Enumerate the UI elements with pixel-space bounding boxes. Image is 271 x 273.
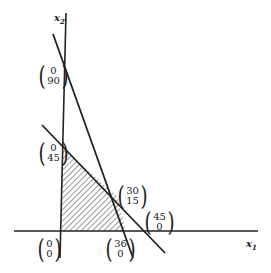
point-label-45-0: (450) xyxy=(143,210,176,234)
point-label-36-0: (360) xyxy=(104,237,137,261)
x1-axis-label: x1 xyxy=(246,238,257,252)
point-label-0-90: (090) xyxy=(37,64,70,88)
diagram-canvas xyxy=(0,0,271,273)
point-label-0-45: (045) xyxy=(37,141,70,165)
point-label-30-15: (3015) xyxy=(116,184,149,208)
lp-feasible-region-diagram: x2 x1 (090) (045) (3015) (450) (00) (360… xyxy=(0,0,271,273)
x2-axis-label: x2 xyxy=(54,12,65,26)
point-label-0-0: (00) xyxy=(36,237,63,261)
